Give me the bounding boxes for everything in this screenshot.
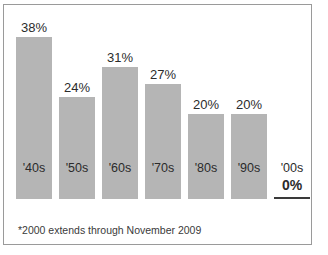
bar-value-label: 0% xyxy=(268,178,312,193)
bar-rect xyxy=(102,67,138,199)
bar-value-label: 31% xyxy=(96,50,144,65)
chart-footnote: *2000 extends through November 2009 xyxy=(18,224,201,237)
bar-value-label: 20% xyxy=(225,97,273,112)
bar-rect xyxy=(59,97,95,199)
plot-area: 38%'40s24%'50s31%'60s27%'70s20%'80s20%'9… xyxy=(4,5,311,244)
x-axis-tick-label: '40s xyxy=(10,161,58,175)
x-axis-tick-label: '90s xyxy=(225,161,273,175)
bar-value-label: 24% xyxy=(53,80,101,95)
x-axis-tick-label: '70s xyxy=(139,161,187,175)
x-axis-tick-label: '00s xyxy=(268,161,312,175)
bar-value-label: 20% xyxy=(182,97,230,112)
x-axis-tick-label: '60s xyxy=(96,161,144,175)
bar-value-label: 27% xyxy=(139,67,187,82)
chart-frame: 38%'40s24%'50s31%'60s27%'70s20%'80s20%'9… xyxy=(3,4,312,245)
bar-rect xyxy=(188,114,224,199)
bar-value-label: 38% xyxy=(10,20,58,35)
bar-rect xyxy=(231,114,267,199)
bar-rect xyxy=(145,84,181,199)
x-axis-tick-label: '50s xyxy=(53,161,101,175)
zero-baseline-rule xyxy=(274,197,310,199)
x-axis-tick-label: '80s xyxy=(182,161,230,175)
